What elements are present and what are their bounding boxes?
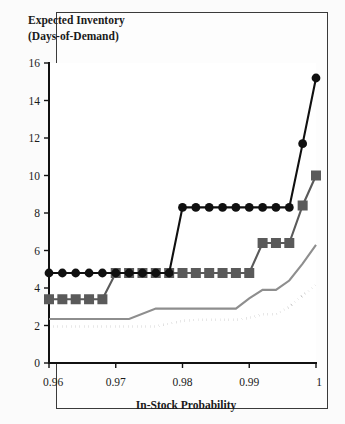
series-marker xyxy=(244,268,254,278)
y-tick-label: 2 xyxy=(34,320,40,332)
y-tick-label: 4 xyxy=(34,282,40,294)
series-marker xyxy=(284,238,294,248)
x-axis-tick-labels: 0.960.970.980.991 xyxy=(43,376,322,388)
series-marker xyxy=(258,238,268,248)
series-marker xyxy=(191,203,200,212)
series-marker xyxy=(258,203,267,212)
x-tick-label: 0.97 xyxy=(106,376,126,388)
series-marker xyxy=(218,203,227,212)
series-marker xyxy=(85,269,94,278)
series-marker xyxy=(57,294,67,304)
series-marker xyxy=(178,203,187,212)
series-marker xyxy=(245,203,254,212)
series-marker xyxy=(298,201,308,211)
series-marker xyxy=(84,294,94,304)
series-marker xyxy=(232,203,241,212)
series-marker xyxy=(311,171,321,181)
series-marker xyxy=(271,238,281,248)
y-tick-label: 8 xyxy=(34,207,40,219)
series-marker xyxy=(178,268,188,278)
chart-figure: 0246810121416 0.960.970.980.991 Expected… xyxy=(0,0,345,424)
series-marker xyxy=(231,268,241,278)
series-marker xyxy=(58,269,67,278)
series-marker xyxy=(285,203,294,212)
x-tick-label: 1 xyxy=(316,376,322,388)
series-marker xyxy=(111,269,120,278)
y-tick-label: 12 xyxy=(29,132,41,144)
series-marker xyxy=(151,269,160,278)
expected-inventory-chart: 0246810121416 0.960.970.980.991 Expected… xyxy=(0,0,345,424)
x-tick-label: 0.98 xyxy=(172,376,192,388)
y-tick-label: 6 xyxy=(34,245,40,257)
chart-title-line-1: Expected Inventory xyxy=(28,14,125,27)
series-marker xyxy=(44,294,54,304)
series-marker xyxy=(97,294,107,304)
series-marker xyxy=(312,74,321,83)
chart-title-line-2: (Days-of-Demand) xyxy=(28,30,119,43)
series-marker xyxy=(71,269,80,278)
y-tick-label: 10 xyxy=(29,170,41,182)
x-axis-title: In-Stock Probability xyxy=(136,399,237,412)
series-marker xyxy=(298,139,307,148)
series-marker xyxy=(125,269,134,278)
series-marker xyxy=(191,268,201,278)
x-tick-label: 0.99 xyxy=(239,376,259,388)
series-marker xyxy=(138,269,147,278)
series-marker xyxy=(204,268,214,278)
series-marker xyxy=(218,268,228,278)
y-tick-label: 16 xyxy=(29,57,41,69)
x-tick-label: 0.96 xyxy=(43,376,63,388)
series-marker xyxy=(98,269,107,278)
series-marker xyxy=(165,269,174,278)
y-tick-label: 14 xyxy=(29,95,41,107)
series-marker xyxy=(205,203,214,212)
series-marker xyxy=(45,269,54,278)
y-axis-tick-labels: 0246810121416 xyxy=(29,57,41,369)
series-marker xyxy=(272,203,281,212)
y-tick-label: 0 xyxy=(34,357,40,369)
series-marker xyxy=(71,294,81,304)
